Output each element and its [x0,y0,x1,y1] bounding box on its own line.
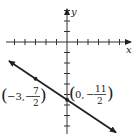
point-b-denominator: 2 [97,96,103,106]
point-a-marker [34,77,38,81]
coordinate-plane: x y ( −3, − 7 2 ) [0,0,133,136]
point-b-numerator: 11 [95,84,106,94]
x-axis-label: x [126,44,132,55]
svg-text:): ) [40,85,47,105]
point-a-numerator: 7 [33,86,39,96]
y-axis: y [64,6,77,134]
point-a-label: ( −3, − 7 2 ) [1,85,47,108]
point-b-x: 0, [75,89,85,100]
point-a-x: −3, [7,91,25,102]
point-b-label: ( 0, − 11 2 ) [69,83,114,106]
svg-text:−: − [86,89,94,100]
svg-text:): ) [107,83,114,103]
point-a-denominator: 2 [33,98,39,108]
y-axis-label: y [70,6,77,17]
